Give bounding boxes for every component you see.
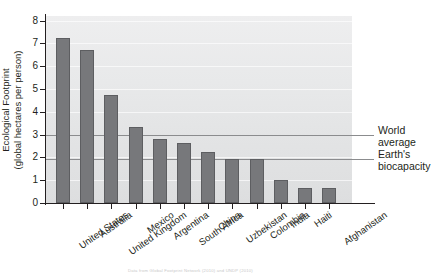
reference-line-label: Earth'sbiocapacity [378,148,431,172]
bar [201,152,215,203]
bar [80,50,94,203]
y-axis-tick-label: 1 [24,175,38,185]
source-caption: Data from Global Footprint Network (2010… [128,268,253,273]
y-axis-tick-label: 8 [24,16,38,26]
y-axis-tick-label: 4 [24,107,38,117]
y-axis-tick-label: 2 [24,152,38,162]
reference-line-label-line2: average [378,136,416,148]
y-axis-tick-label: 5 [24,84,38,94]
y-axis-tick-label: 6 [24,61,38,71]
reference-line-label-line1: Earth's [378,148,431,160]
bar [274,180,288,203]
y-axis-tick [40,21,45,22]
reference-line-extension [352,159,374,160]
x-axis-tick [160,204,161,209]
y-axis-title-line1: Ecological Footprint [0,51,11,170]
x-axis-tick [257,204,258,209]
reference-line-label-line1: World [378,124,416,136]
bar [250,159,264,204]
x-axis-tick [87,204,88,209]
y-axis-tick [40,203,45,204]
bar [56,38,70,203]
y-axis-tick [40,180,45,181]
x-axis-category-label: Haiti [312,210,333,229]
y-axis-tick [40,66,45,67]
reference-line-label-line2: biocapacity [378,160,431,172]
y-axis-tick [40,157,45,158]
y-axis-title-line2: (global hectares per person) [11,51,23,170]
x-axis-tick [232,204,233,209]
y-axis-tick-label: 0 [24,198,38,208]
bar [177,143,191,203]
bar [104,95,118,203]
x-axis-category-label: India [289,210,312,230]
x-axis-line [45,203,375,204]
plot-area [46,16,352,203]
bar [153,139,167,203]
reference-line-label: Worldaverage [378,124,416,148]
y-axis-tick [40,89,45,90]
x-axis-tick [136,204,137,209]
x-axis-tick [111,204,112,209]
y-axis-tick [40,135,45,136]
bar [298,188,312,203]
x-axis-tick [208,204,209,209]
reference-line-extension [352,135,374,136]
x-axis-tick [184,204,185,209]
x-axis-category-label: Afghanistan [342,210,389,247]
y-axis-tick [40,43,45,44]
x-axis-tick [63,204,64,209]
ecological-footprint-bar-chart: Ecological Footprint (global hectares pe… [0,0,436,277]
y-axis-title: Ecological Footprint (global hectares pe… [0,16,22,204]
y-axis-line [45,14,46,205]
bar [322,188,336,203]
gridline [46,21,352,22]
y-axis-tick [40,112,45,113]
y-axis-tick-label: 3 [24,130,38,140]
bar [129,127,143,203]
x-axis-tick [329,204,330,209]
bar [225,159,239,204]
gridline [46,43,352,44]
y-axis-tick-label: 7 [24,38,38,48]
